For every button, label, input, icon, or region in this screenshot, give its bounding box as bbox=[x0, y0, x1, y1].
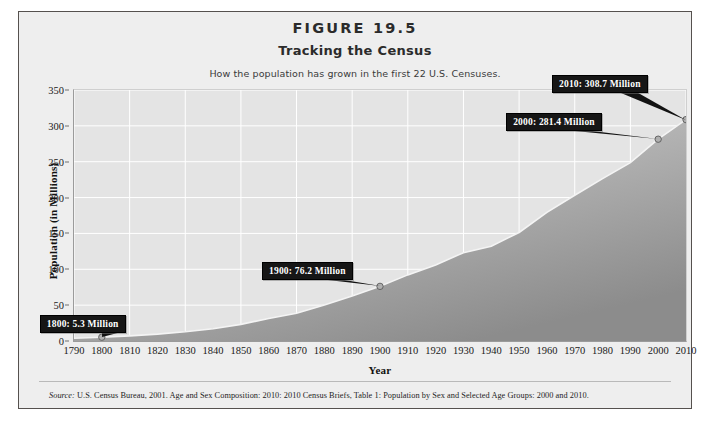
y-axis-tick-mark bbox=[65, 125, 69, 126]
x-axis-tick-label: 1910 bbox=[397, 345, 418, 356]
y-axis-tick-mark bbox=[65, 305, 69, 306]
x-axis-tick-label: 2010 bbox=[676, 345, 697, 356]
x-axis-tick-label: 1870 bbox=[286, 345, 307, 356]
x-axis-tick-label: 1960 bbox=[536, 345, 557, 356]
x-axis-tick-label: 1990 bbox=[620, 345, 641, 356]
annotation-leader-line bbox=[619, 91, 688, 122]
figure-number: FIGURE 19.5 bbox=[19, 20, 691, 36]
annotation-callout: 2000: 281.4 Million bbox=[506, 113, 602, 131]
x-axis-tick-label: 1880 bbox=[314, 345, 335, 356]
source-label: Source: bbox=[49, 391, 75, 400]
x-axis-title: Year bbox=[73, 364, 687, 376]
source-divider bbox=[39, 381, 671, 382]
x-axis-tick-label: 1790 bbox=[64, 345, 85, 356]
source-note: Source: U.S. Census Bureau, 2001. Age an… bbox=[49, 391, 661, 400]
y-axis-tick-mark bbox=[65, 341, 69, 342]
y-axis-tick-mark bbox=[65, 161, 69, 162]
x-axis-tick-label: 1800 bbox=[91, 345, 112, 356]
x-axis-tick-label: 1900 bbox=[370, 345, 391, 356]
y-axis-tick-mark bbox=[65, 90, 69, 91]
x-axis-tick-label: 1930 bbox=[453, 345, 474, 356]
population-area bbox=[74, 120, 686, 341]
x-axis-tick-label: 1840 bbox=[203, 345, 224, 356]
figure-frame: FIGURE 19.5 Tracking the Census How the … bbox=[18, 11, 692, 409]
x-axis-tick-label: 1950 bbox=[509, 345, 530, 356]
y-axis-tick-label: 350 bbox=[48, 85, 64, 96]
x-axis-tick-label: 1970 bbox=[564, 345, 585, 356]
figure-root: FIGURE 19.5 Tracking the Census How the … bbox=[0, 0, 714, 435]
x-axis-tick-label: 1850 bbox=[230, 345, 251, 356]
x-axis-tick-label: 1810 bbox=[119, 345, 140, 356]
x-axis-tick-label: 1830 bbox=[175, 345, 196, 356]
x-axis-tick-label: 1860 bbox=[258, 345, 279, 356]
y-axis-tick-mark bbox=[65, 233, 69, 234]
x-axis: 1790180018101820183018401850186018701880… bbox=[73, 345, 687, 361]
x-axis-tick-label: 1920 bbox=[425, 345, 446, 356]
figure-title: Tracking the Census bbox=[19, 43, 691, 58]
annotation-callout: 1800: 5.3 Million bbox=[40, 315, 126, 333]
x-axis-tick-label: 2000 bbox=[648, 345, 669, 356]
y-axis-tick-label: 300 bbox=[48, 120, 64, 131]
x-axis-tick-label: 1980 bbox=[592, 345, 613, 356]
x-axis-tick-label: 1820 bbox=[147, 345, 168, 356]
x-axis-tick-label: 1940 bbox=[481, 345, 502, 356]
y-axis-title: Population (in Millions) bbox=[47, 141, 59, 301]
x-axis-tick-label: 1890 bbox=[342, 345, 363, 356]
y-axis-tick-mark bbox=[65, 197, 69, 198]
y-axis-tick-mark bbox=[65, 269, 69, 270]
annotation-callout: 2010: 308.7 Million bbox=[552, 75, 648, 93]
y-axis-tick-label: 50 bbox=[54, 300, 65, 311]
source-text: U.S. Census Bureau, 2001. Age and Sex Co… bbox=[75, 391, 589, 400]
annotation-callout: 1900: 76.2 Million bbox=[262, 262, 353, 280]
